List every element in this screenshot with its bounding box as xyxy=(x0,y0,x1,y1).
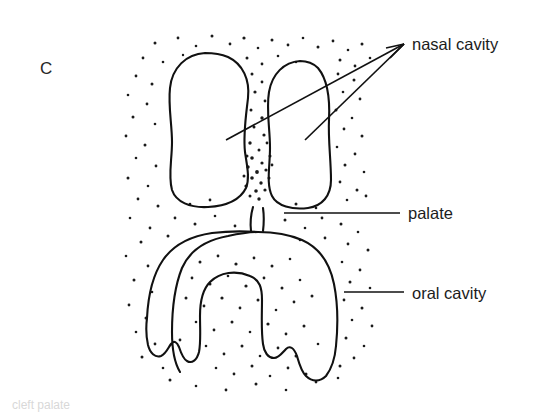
panel-letter: C xyxy=(40,59,52,78)
label-palate: palate xyxy=(408,204,453,222)
leader-lines xyxy=(226,44,404,292)
figure-container: C nasal cavity palate oral cavity cleft … xyxy=(0,0,544,412)
leader-nasal-left xyxy=(226,44,404,140)
nasal-cavity-right-lobe xyxy=(268,61,331,209)
figure-caption: cleft palate xyxy=(12,398,70,412)
oral-cavity-arch xyxy=(146,232,337,381)
label-nasal-cavity: nasal cavity xyxy=(412,35,499,53)
nasal-cavity-left-lobe xyxy=(169,53,248,207)
palate-stalk xyxy=(251,207,264,231)
leader-nasal-right xyxy=(305,44,404,140)
anatomical-diagram: C nasal cavity palate oral cavity cleft … xyxy=(0,0,544,412)
label-oral-cavity: oral cavity xyxy=(412,284,487,302)
